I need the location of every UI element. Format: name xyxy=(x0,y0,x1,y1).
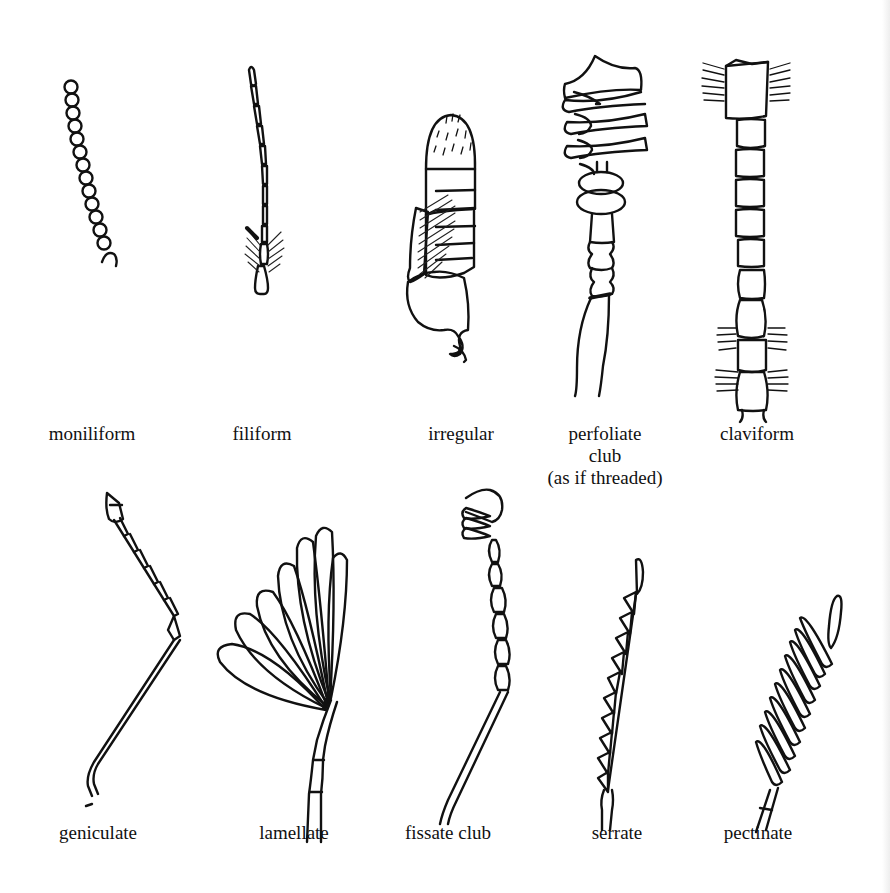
label-perfoliate-line2: club xyxy=(548,445,663,467)
label-fissate-club: fissate club xyxy=(405,822,491,844)
antenna-types-figure: moniliform filiform irregular perfoliate… xyxy=(0,0,890,893)
claviform-antenna-illustration xyxy=(702,60,790,422)
label-moniliform: moniliform xyxy=(49,423,136,445)
label-pectinate: pectinate xyxy=(724,822,793,844)
geniculate-antenna-illustration xyxy=(86,493,180,806)
label-irregular: irregular xyxy=(428,423,493,445)
serrate-antenna-illustration xyxy=(598,559,643,830)
perfoliate-club-antenna-illustration xyxy=(563,56,647,396)
label-claviform: claviform xyxy=(720,423,794,445)
moniliform-antenna-illustration xyxy=(65,81,117,267)
fissate-club-antenna-illustration xyxy=(440,490,510,824)
antenna-illustrations xyxy=(0,0,890,893)
irregular-antenna-illustration xyxy=(407,114,475,362)
label-perfoliate-club: perfoliate club (as if threaded) xyxy=(548,423,663,489)
filiform-antenna-illustration xyxy=(245,67,284,294)
label-serrate: serrate xyxy=(592,822,643,844)
label-geniculate: geniculate xyxy=(59,822,137,844)
pectinate-antenna-illustration xyxy=(756,596,842,832)
page-edge-shadow xyxy=(882,0,890,893)
label-lamellate: lamellate xyxy=(259,822,329,844)
lamellate-antenna-illustration xyxy=(218,528,347,842)
label-perfoliate-line1: perfoliate xyxy=(548,423,663,445)
label-filiform: filiform xyxy=(232,423,291,445)
label-perfoliate-line3: (as if threaded) xyxy=(548,467,663,489)
